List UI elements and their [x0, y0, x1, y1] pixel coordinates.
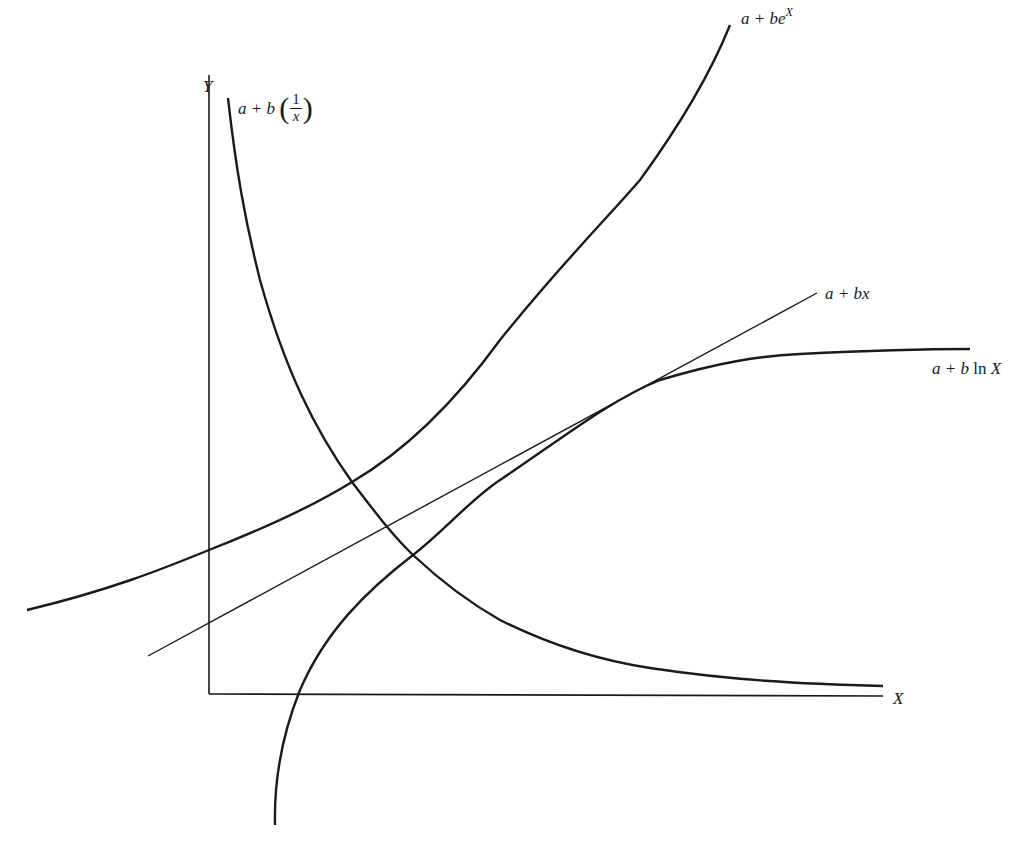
- label-exponential-exponent: X: [786, 5, 793, 19]
- curve-logarithmic: [275, 349, 970, 825]
- x-axis: [209, 694, 883, 696]
- curve-linear: [148, 293, 817, 656]
- curve-exponential: [27, 25, 730, 610]
- label-linear: a + bx: [825, 285, 870, 302]
- label-exponential: a + beX: [741, 6, 793, 27]
- label-logarithmic: a + b ln X: [932, 360, 1001, 377]
- label-log-prefix: a + b: [932, 359, 973, 378]
- label-exponential-base: a + be: [741, 9, 786, 28]
- label-recip-open-paren: (: [279, 91, 289, 124]
- curve-reciprocal: [228, 98, 883, 686]
- x-axis-label: X: [893, 690, 903, 707]
- label-recip-fraction: 1x: [290, 92, 302, 125]
- y-axis-label: Y: [203, 78, 212, 95]
- label-log-ln: ln: [973, 359, 986, 378]
- label-reciprocal: a + b (1x): [238, 92, 313, 125]
- label-recip-prefix: a + b: [238, 99, 275, 118]
- label-log-var: X: [986, 359, 1001, 378]
- label-recip-close-paren: ): [303, 91, 313, 124]
- label-recip-numerator: 1: [290, 92, 302, 109]
- label-recip-denominator: x: [293, 109, 300, 125]
- function-forms-diagram: [0, 0, 1031, 848]
